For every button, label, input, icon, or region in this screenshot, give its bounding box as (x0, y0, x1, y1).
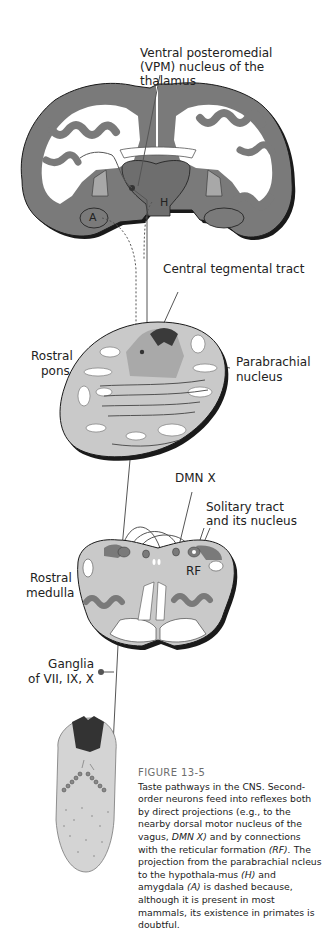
label-central-tegmental-tract: Central tegmental tract (163, 262, 304, 276)
label-rostral-pons-1: Rostral (31, 349, 73, 363)
label-hypothalamus: H (160, 196, 168, 210)
label-rostral-medulla-2: medulla (26, 586, 74, 600)
label-parabrachial-2: nucleus (236, 370, 282, 384)
label-ganglia-1: Ganglia (30, 657, 94, 671)
figure-caption: FIGURE 13-5 Taste pathways in the CNS. S… (138, 767, 322, 932)
label-rostral-medulla-1: Rostral (30, 571, 72, 585)
tongue (56, 716, 116, 872)
caption-em-dmn: DMN X) (172, 831, 207, 842)
figure-number: FIGURE 13-5 (138, 767, 322, 780)
label-vpm-line2: (VPM) nucleus of the thalamus (140, 60, 322, 88)
label-amygdala: A (89, 211, 97, 225)
label-solitary-2: and its nucleus (206, 514, 297, 528)
caption-em-h: (H) (241, 869, 255, 880)
label-rf: RF (186, 564, 201, 578)
label-vpm-line1: Ventral posteromedial (140, 46, 272, 60)
label-ganglia-2: of VII, IX, X (10, 672, 94, 686)
rostral-medulla-section (78, 540, 238, 650)
label-parabrachial-1: Parabrachial (236, 355, 310, 369)
label-rostral-pons-2: pons (41, 364, 70, 378)
label-solitary-1: Solitary tract (206, 500, 284, 514)
caption-body: Taste pathways in the CNS. Second-order … (138, 781, 322, 932)
caption-em-rf: (RF). (269, 844, 291, 855)
coronal-brain-section (21, 83, 295, 240)
label-dmn-x: DMN X (175, 471, 216, 485)
rostral-pons-section (60, 322, 228, 461)
caption-em-a: (A) (187, 881, 201, 892)
